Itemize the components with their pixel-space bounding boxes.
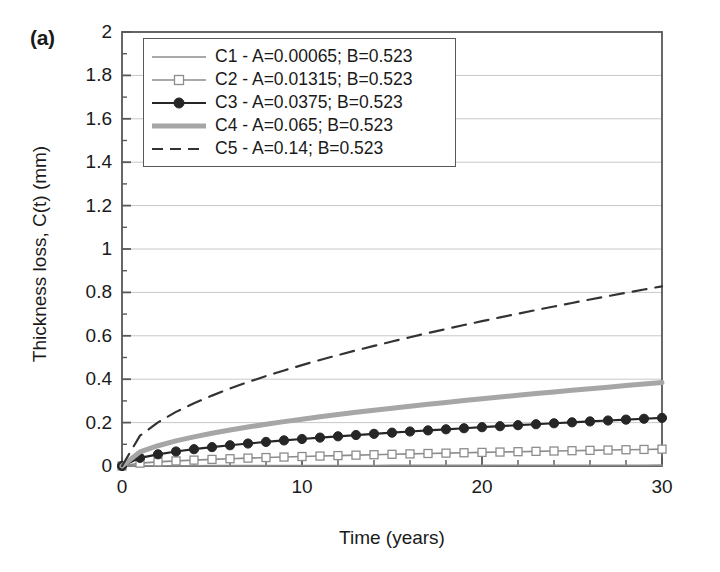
series-c1 bbox=[122, 465, 662, 466]
series-c5 bbox=[122, 286, 662, 466]
chart-figure: (a) Thickness loss, C(t) (mm) Time (year… bbox=[0, 0, 720, 572]
chart-legend: C1 - A=0.00065; B=0.523C2 - A=0.01315; B… bbox=[143, 38, 456, 167]
series-c3 bbox=[117, 413, 666, 470]
legend-label: C4 - A=0.065; B=0.523 bbox=[215, 117, 393, 135]
legend-item-c3: C3 - A=0.0375; B=0.523 bbox=[150, 91, 447, 114]
legend-swatch-c5 bbox=[150, 139, 208, 159]
legend-item-c1: C1 - A=0.00065; B=0.523 bbox=[150, 45, 447, 68]
legend-swatch-c4 bbox=[150, 116, 208, 136]
legend-item-c5: C5 - A=0.14; B=0.523 bbox=[150, 137, 447, 160]
legend-label: C2 - A=0.01315; B=0.523 bbox=[215, 71, 413, 89]
legend-swatch-c3 bbox=[150, 93, 208, 113]
legend-item-c4: C4 - A=0.065; B=0.523 bbox=[150, 114, 447, 137]
legend-item-c2: C2 - A=0.01315; B=0.523 bbox=[150, 68, 447, 91]
legend-label: C5 - A=0.14; B=0.523 bbox=[215, 140, 383, 158]
legend-swatch-c2 bbox=[150, 70, 208, 90]
legend-label: C1 - A=0.00065; B=0.523 bbox=[215, 48, 413, 66]
legend-swatch-c1 bbox=[150, 47, 208, 67]
legend-label: C3 - A=0.0375; B=0.523 bbox=[215, 94, 403, 112]
